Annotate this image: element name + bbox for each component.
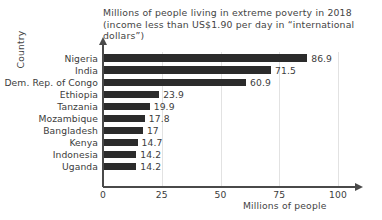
bar-row: Indonesia14.2 <box>103 149 338 161</box>
bar <box>103 139 138 146</box>
category-label: India <box>75 65 98 76</box>
bar-chart: Millions of people living in extreme pov… <box>0 0 382 220</box>
gridline <box>338 52 339 186</box>
bar <box>103 79 246 86</box>
x-tick-label: 25 <box>156 189 168 200</box>
y-axis-line <box>102 43 104 187</box>
bar <box>103 151 136 158</box>
bar-value-label: 86.9 <box>311 53 332 64</box>
bar-row: Tanzania19.9 <box>103 100 338 112</box>
bar <box>103 54 307 61</box>
category-label: Kenya <box>69 137 98 148</box>
x-axis-line <box>103 186 357 188</box>
bar-value-label: 14.2 <box>140 149 161 160</box>
bar <box>103 115 145 122</box>
bar-value-label: 60.9 <box>250 77 271 88</box>
category-label: Bangladesh <box>43 125 98 136</box>
bar-row: Ethiopia23.9 <box>103 88 338 100</box>
bar-row: India71.5 <box>103 64 338 76</box>
bar-row: Mozambique17.8 <box>103 113 338 125</box>
y-axis-arrow-icon <box>99 37 107 45</box>
y-axis-title: Country <box>15 20 26 80</box>
bar-value-label: 14.7 <box>142 137 163 148</box>
bar-row: Dem. Rep. of Congo60.9 <box>103 76 338 88</box>
x-tick-label: 100 <box>329 189 347 200</box>
category-label: Uganda <box>62 161 98 172</box>
category-label: Ethiopia <box>60 89 98 100</box>
bar-row: Bangladesh17 <box>103 125 338 137</box>
bar <box>103 91 159 98</box>
category-label: Mozambique <box>38 113 98 124</box>
bar <box>103 103 150 110</box>
bar-value-label: 19.9 <box>154 101 175 112</box>
category-label: Tanzania <box>57 101 98 112</box>
x-axis-arrow-icon <box>355 183 363 191</box>
bar <box>103 127 143 134</box>
bar-value-label: 23.9 <box>163 89 184 100</box>
category-label: Indonesia <box>53 149 98 160</box>
x-tick-label: 50 <box>215 189 227 200</box>
bar-row: Nigeria86.9 <box>103 52 338 64</box>
chart-title: Millions of people living in extreme pov… <box>103 7 379 42</box>
x-tick-label: 0 <box>100 189 106 200</box>
bar-row: Uganda14.2 <box>103 161 338 173</box>
category-label: Nigeria <box>64 53 98 64</box>
category-label: Dem. Rep. of Congo <box>4 77 98 88</box>
bar-value-label: 17.8 <box>149 113 170 124</box>
bar <box>103 163 136 170</box>
x-tick-label: 75 <box>273 189 285 200</box>
x-axis-title: Millions of people <box>243 200 327 211</box>
bar-value-label: 14.2 <box>140 161 161 172</box>
bar-row: Kenya14.7 <box>103 137 338 149</box>
bar <box>103 66 271 73</box>
bar-value-label: 71.5 <box>275 65 296 76</box>
bar-value-label: 17 <box>147 125 159 136</box>
plot-area: Nigeria86.9India71.5Dem. Rep. of Congo60… <box>103 52 338 186</box>
